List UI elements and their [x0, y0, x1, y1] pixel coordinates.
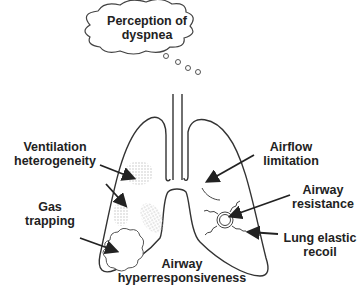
arrow-airway-resistance	[231, 195, 290, 216]
label-airway-resistance-line1: Airway	[288, 183, 358, 197]
label-airflow-line2: limitation	[256, 154, 326, 168]
label-gas-trapping-line1: Gas	[20, 200, 80, 214]
label-ventilation-line2: heterogeneity	[5, 154, 105, 168]
label-ventilation-line1: Ventilation	[5, 140, 105, 154]
stipple-patch-upper-left	[125, 161, 153, 185]
label-hyperresponsiveness-line1: Airway	[112, 257, 252, 271]
thought-line1: Perception of	[92, 14, 202, 28]
label-lung-elastic: Lung elastic recoil	[278, 231, 361, 259]
label-hyperresponsiveness: Airway hyperresponsiveness	[112, 257, 252, 285]
label-lung-elastic-line2: recoil	[278, 245, 361, 259]
label-airway-resistance-line2: resistance	[288, 197, 358, 211]
airway-ring-icon	[204, 201, 246, 235]
label-lung-elastic-line1: Lung elastic	[278, 231, 361, 245]
label-hyperresponsiveness-line2: hyperresponsiveness	[112, 271, 252, 285]
thought-line2: dyspnea	[92, 28, 202, 42]
arrow-lung-elastic	[249, 232, 278, 234]
arrow-airflow	[208, 155, 254, 181]
label-gas-trapping-line2: trapping	[20, 214, 80, 228]
label-gas-trapping: Gas trapping	[20, 200, 80, 228]
thought-bubble-text: Perception of dyspnea	[92, 14, 202, 42]
label-airway-resistance: Airway resistance	[288, 183, 358, 211]
label-ventilation: Ventilation heterogeneity	[5, 140, 105, 168]
label-airflow: Airflow limitation	[256, 140, 326, 168]
stipple-patch-mid-left	[113, 202, 129, 226]
label-airflow-line1: Airflow	[256, 140, 326, 154]
